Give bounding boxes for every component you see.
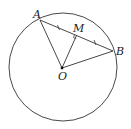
label-o: O	[58, 70, 67, 83]
tick-mark-mb	[94, 40, 96, 45]
center-point-o	[61, 67, 64, 70]
label-a: A	[32, 8, 41, 21]
geometry-diagram: A M B O	[0, 0, 131, 129]
segment-om	[62, 36, 77, 69]
label-m: M	[72, 22, 85, 35]
label-b: B	[115, 45, 124, 58]
segment-ob	[62, 51, 113, 68]
circle	[9, 13, 117, 121]
